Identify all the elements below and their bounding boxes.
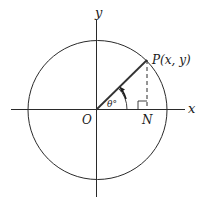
- angle-label: θ°: [107, 99, 117, 109]
- arrowhead-icon: [120, 87, 126, 93]
- arrow-icon: [122, 90, 126, 99]
- y-axis-label: y: [94, 5, 103, 20]
- origin-label: O: [82, 113, 92, 127]
- point-p-label: P(x, y): [151, 53, 191, 67]
- radius-op: [97, 60, 148, 110]
- right-angle-marker: [138, 101, 147, 110]
- unit-circle-diagram: y x P(x, y) O N θ°: [0, 0, 201, 201]
- foot-n-label: N: [141, 113, 153, 127]
- x-axis-label: x: [188, 101, 196, 116]
